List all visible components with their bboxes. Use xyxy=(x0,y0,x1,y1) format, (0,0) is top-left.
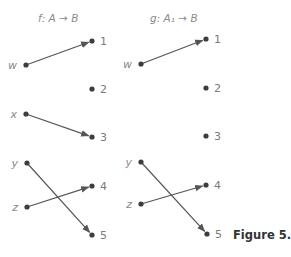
codomain-label-1: 1 xyxy=(100,35,107,48)
domain-label-w: w xyxy=(123,58,132,71)
mapping-arrow-y-to-5 xyxy=(141,162,205,231)
panel-f-domain: wxyz xyxy=(8,59,30,214)
panel-f-arrows xyxy=(26,42,90,232)
mapping-arrow-w-to-1 xyxy=(141,40,203,64)
panel-g: g: A₁ → B wyz 12345 xyxy=(123,12,222,241)
codomain-point-5 xyxy=(89,232,94,237)
codomain-point-4 xyxy=(203,182,208,187)
domain-label-z: z xyxy=(125,198,132,211)
codomain-label-3: 3 xyxy=(100,131,107,144)
domain-label-w: w xyxy=(8,59,17,72)
panel-f: f: A → B wxyz 12345 xyxy=(8,12,107,242)
panel-g-arrows xyxy=(141,40,205,231)
domain-point-y xyxy=(138,159,143,164)
codomain-point-3 xyxy=(89,134,94,139)
domain-point-z xyxy=(138,201,143,206)
mapping-arrow-w-to-1 xyxy=(26,42,89,65)
codomain-label-1: 1 xyxy=(214,33,221,46)
codomain-point-2 xyxy=(203,85,208,90)
mapping-arrow-z-to-4 xyxy=(141,186,203,204)
function-mapping-diagram: f: A → B wxyz 12345 g: A₁ → B wyz 12345 … xyxy=(0,0,291,257)
domain-label-x: x xyxy=(9,108,17,121)
codomain-point-4 xyxy=(89,183,94,188)
mapping-arrow-x-to-3 xyxy=(26,114,89,136)
panel-g-title: g: A₁ → B xyxy=(150,12,198,24)
codomain-label-3: 3 xyxy=(214,130,221,143)
codomain-point-1 xyxy=(89,38,94,43)
domain-point-w xyxy=(138,61,143,66)
panel-f-codomain: 12345 xyxy=(89,35,107,242)
domain-point-z xyxy=(24,204,29,209)
domain-label-z: z xyxy=(11,201,18,214)
codomain-label-4: 4 xyxy=(100,180,107,193)
domain-label-y: y xyxy=(10,157,18,170)
figure-caption: Figure 5.5 xyxy=(233,228,291,242)
codomain-label-2: 2 xyxy=(100,83,107,96)
codomain-label-2: 2 xyxy=(214,82,221,95)
codomain-label-5: 5 xyxy=(215,228,222,241)
codomain-point-2 xyxy=(89,86,94,91)
codomain-point-1 xyxy=(203,36,208,41)
mapping-arrow-z-to-4 xyxy=(27,187,89,207)
panel-g-domain: wyz xyxy=(123,58,144,211)
codomain-label-5: 5 xyxy=(100,229,107,242)
codomain-label-4: 4 xyxy=(214,179,221,192)
panel-f-title: f: A → B xyxy=(38,12,78,24)
codomain-point-3 xyxy=(203,133,208,138)
domain-point-x xyxy=(23,111,28,116)
panel-g-codomain: 12345 xyxy=(203,33,222,241)
domain-label-y: y xyxy=(124,156,132,169)
domain-point-y xyxy=(24,160,29,165)
codomain-point-5 xyxy=(204,231,209,236)
mapping-arrow-y-to-5 xyxy=(27,163,90,232)
domain-point-w xyxy=(23,62,28,67)
